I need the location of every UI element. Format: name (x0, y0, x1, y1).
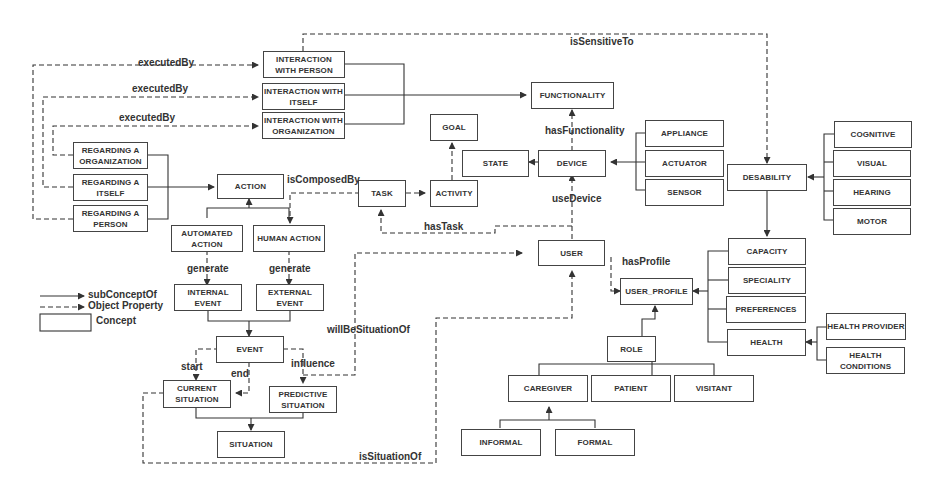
ontology-diagram: INTERACTION WITH PERSON INTERACTION WITH… (0, 0, 942, 491)
legend-lines (0, 0, 942, 491)
legend-concept: Concept (96, 315, 136, 326)
legend-concept-box-icon (40, 314, 91, 331)
legend-sub-concept-of: subConceptOf (88, 289, 157, 300)
legend-object-property: Object Property (88, 300, 163, 311)
